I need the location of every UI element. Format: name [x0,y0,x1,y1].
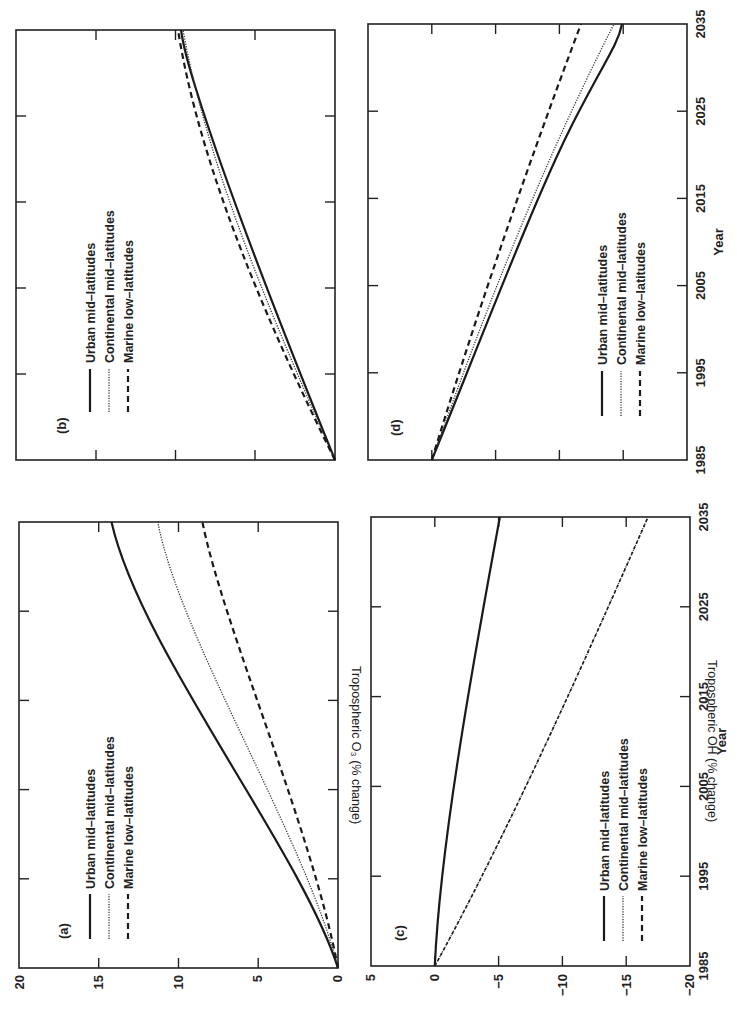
figure-landscape: 0 5 10 15 20 Tropospheric O₃ (% change) … [0,0,737,1029]
panel-b: (b) Urban mid–latitudes Continental mid–… [16,30,335,460]
svg-text:15: 15 [91,975,106,989]
panel-d-urban-line [432,24,622,460]
svg-text:2005: 2005 [696,772,711,801]
panel-d-legend: Urban mid–latitudes Continental mid–lati… [596,212,648,416]
svg-text:Marine low–latitudes: Marine low–latitudes [636,768,650,891]
panel-c-label: (c) [392,925,407,941]
svg-text:Marine low–latitudes: Marine low–latitudes [634,242,648,365]
svg-text:Continental mid–latitudes: Continental mid–latitudes [103,736,117,889]
svg-text:2005: 2005 [693,271,708,300]
panel-a-ylabel: Tropospheric O₃ (% change) [349,666,363,824]
svg-text:Marine low–latitudes: Marine low–latitudes [122,766,136,889]
svg-text:2035: 2035 [693,10,708,39]
panel-b-label: (b) [54,417,69,434]
panel-b-y-ticks [96,30,255,460]
panel-a-continental-line [158,522,338,968]
panel-b-marine-line [178,30,335,460]
panel-c-y-tick-labels: 5 0 −5 −10 −15 −20 [363,974,697,996]
panel-b-urban-line [181,30,335,460]
svg-text:2025: 2025 [693,97,708,126]
svg-text:Continental mid–latitudes: Continental mid–latitudes [103,210,117,363]
svg-text:Urban mid–latitudes: Urban mid–latitudes [84,243,98,363]
svg-text:−15: −15 [619,974,634,996]
panel-b-continental-line [183,30,335,460]
svg-text:−5: −5 [491,974,506,989]
svg-text:10: 10 [171,975,186,989]
panel-a-label: (a) [56,923,71,939]
panel-a-y-ticks [99,522,259,968]
svg-text:20: 20 [12,975,27,989]
svg-text:Urban mid–latitudes: Urban mid–latitudes [598,771,612,891]
panel-d-xlabel: Year [711,228,726,255]
panel-c: 5 0 −5 −10 −15 −20 Tropospheric OH (% ch… [363,503,729,997]
panel-d-label: (d) [388,419,403,436]
panel-d: 1985 1995 2005 2015 2025 2035 Year (d) U… [368,10,726,475]
svg-text:1985: 1985 [696,952,711,981]
svg-text:2015: 2015 [693,184,708,213]
panel-d-marine-line [432,24,581,460]
svg-text:5: 5 [363,974,378,981]
panel-a: 0 5 10 15 20 Tropospheric O₃ (% change) … [12,522,363,989]
svg-text:2035: 2035 [696,503,711,532]
panel-d-y-ticks [432,24,623,460]
panel-b-x-ticks [16,116,335,374]
panel-d-x-tick-labels: 1985 1995 2005 2015 2025 2035 [693,10,708,475]
svg-text:Urban mid–latitudes: Urban mid–latitudes [596,245,610,365]
panel-c-y-ticks [435,517,626,966]
svg-text:−20: −20 [682,974,697,996]
panel-a-y-tick-labels: 0 5 10 15 20 [12,975,345,989]
panel-c-legend: Urban mid–latitudes Continental mid–lati… [598,738,650,941]
svg-text:1995: 1995 [693,358,708,387]
panel-a-legend: Urban mid–latitudes Continental mid–lati… [84,736,136,939]
svg-text:Continental mid–latitudes: Continental mid–latitudes [615,212,629,365]
panel-c-urban-line [435,517,500,966]
svg-text:Continental mid–latitudes: Continental mid–latitudes [617,738,631,891]
svg-text:0: 0 [330,975,345,982]
svg-text:0: 0 [427,974,442,981]
svg-text:Urban mid–latitudes: Urban mid–latitudes [84,769,98,889]
panel-a-marine-line [202,522,338,968]
svg-text:2025: 2025 [696,592,711,621]
svg-text:−10: −10 [555,974,570,996]
panel-b-legend: Urban mid–latitudes Continental mid–lati… [84,210,136,412]
svg-text:2015: 2015 [696,682,711,711]
panel-b-frame [16,30,335,460]
panel-a-urban-line [112,522,339,968]
svg-text:1985: 1985 [693,446,708,475]
panel-a-frame [19,522,338,968]
svg-text:Marine low–latitudes: Marine low–latitudes [122,240,136,363]
svg-text:5: 5 [250,975,265,982]
svg-text:1995: 1995 [696,862,711,891]
panel-c-xlabel: Year [714,728,729,755]
four-panel-chart: 0 5 10 15 20 Tropospheric O₃ (% change) … [0,0,737,1029]
